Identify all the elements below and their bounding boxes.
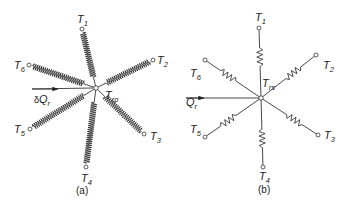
- wire-b-3: [261, 98, 287, 115]
- terminal-label-b-t4: T4: [259, 170, 270, 185]
- resistor-icon: [221, 69, 236, 80]
- wire-b-6: [236, 81, 261, 98]
- center-node-a: [94, 86, 98, 90]
- spring-icon: [32, 64, 84, 86]
- terminal-label-b-t3: T3: [324, 129, 336, 144]
- wire-b-outer-6: [207, 61, 221, 70]
- center-node-b: [259, 96, 263, 100]
- resistor-icon: [221, 114, 236, 126]
- terminal-node-b-2: [314, 53, 318, 57]
- spring-icon: [80, 32, 96, 77]
- wire-b-5: [236, 98, 261, 116]
- resistor-icon: [257, 48, 263, 67]
- terminal-node-a-3: [142, 132, 146, 136]
- center-node-label-b: Trs: [262, 77, 275, 92]
- heat-flow-label-a: δQr: [34, 93, 51, 108]
- terminal-node-b-1: [257, 26, 261, 30]
- terminal-label-b-t5: T5: [190, 123, 202, 138]
- terminal-label-b-t1: T1: [255, 11, 266, 26]
- spring-icon: [84, 102, 97, 163]
- terminal-label-b-t2: T2: [323, 59, 335, 74]
- terminal-label-a-t3: T3: [150, 130, 162, 145]
- terminal-node-b-6: [203, 58, 207, 62]
- terminal-node-b-5: [203, 135, 207, 139]
- terminal-node-a-5: [28, 127, 32, 131]
- wire-b-outer-2: [301, 56, 315, 67]
- terminal-label-b-t6: T6: [190, 67, 202, 82]
- resistor-icon: [286, 67, 301, 80]
- wire-b-4: [261, 98, 262, 129]
- diagram-b: [186, 26, 320, 169]
- terminal-node-a-2: [151, 58, 155, 62]
- terminal-label-a-t5: T5: [14, 123, 26, 138]
- caption-a: (a): [76, 185, 88, 196]
- terminal-label-a-t1: T1: [77, 13, 88, 28]
- spring-icon: [106, 60, 150, 85]
- diagram-canvas: T1 T2 T3 T4 T5 T6 Trp δQr (a) T1 T2 T3 T…: [0, 0, 346, 214]
- resistor-icon: [259, 129, 265, 148]
- terminal-label-a-t2: T2: [157, 54, 169, 69]
- terminal-node-b-4: [261, 165, 265, 169]
- wire-b-1: [260, 67, 261, 99]
- terminal-node-b-3: [316, 133, 320, 137]
- caption-b: (b): [258, 184, 270, 195]
- terminal-label-a-t6: T6: [14, 59, 26, 74]
- terminal-node-a-4: [84, 165, 88, 169]
- wire-b-outer-3: [302, 125, 316, 134]
- terminal-node-a-6: [27, 63, 31, 67]
- spring-icon: [103, 96, 142, 134]
- wire-b-outer-5: [207, 126, 221, 136]
- resistor-icon: [287, 115, 302, 126]
